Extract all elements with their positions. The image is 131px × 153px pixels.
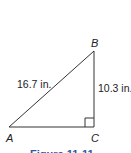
measurement-bc: 10.3 in. <box>98 82 131 94</box>
figure-caption: Figure 11-11 <box>30 148 94 153</box>
measurement-ab: 16.7 in. <box>17 78 51 90</box>
right-triangle-diagram: B A C 16.7 in. 10.3 in. Figure 11-11 <box>0 0 131 153</box>
right-angle-marker <box>85 118 94 127</box>
vertex-label-c: C <box>91 132 99 144</box>
vertex-label-a: A <box>5 132 13 144</box>
vertex-label-b: B <box>91 37 98 49</box>
